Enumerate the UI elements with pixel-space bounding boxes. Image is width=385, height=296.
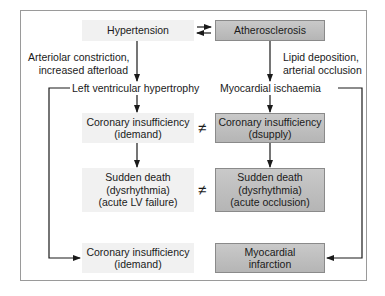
node-label: (acute LV failure) [98,196,177,209]
node-sudden-death-acute-occlusion: Sudden death (dysrhythmia) (acute occlus… [215,168,325,212]
node-label: Sudden death [105,171,170,184]
node-sudden-death-lv-failure: Sudden death (dysrhythmia) (acute LV fai… [82,168,194,212]
not-equal-symbol: ≠ [198,120,206,136]
node-label: Coronary insufficiency [86,246,189,259]
edge-label-left-mechanism: Arteriolar constriction, increased after… [28,51,128,76]
edge-label-line: Lipid deposition, [283,51,362,64]
node-atherosclerosis: Atherosclerosis [215,20,325,41]
node-label: Myocardial [245,246,296,259]
node-myocardial-infarction: Myocardial infarction [215,243,325,273]
node-coronary-insufficiency-demand: Coronary insufficiency (idemand) [82,113,194,143]
node-label: Atherosclerosis [234,24,306,37]
node-label: (idemand) [114,258,161,271]
node-hypertension: Hypertension [82,20,194,41]
node-coronary-insufficiency-supply: Coronary insufficiency (dsupply) [215,113,325,143]
node-ischaemia: Myocardial ischaemia [220,82,321,95]
not-equal-symbol: ≠ [198,182,206,198]
edge-label-right-mechanism: Lipid deposition, arterial occlusion [283,51,362,76]
node-label: (dysrhythmia) [106,184,170,197]
node-label: Hypertension [107,24,169,37]
node-label: Coronary insufficiency [86,116,189,129]
edge-label-line: arterial occlusion [283,64,362,77]
node-label: Coronary insufficiency [218,116,321,129]
node-label: (acute occlusion) [230,196,309,209]
edge-label-line: increased afterload [28,64,128,77]
node-coronary-insufficiency-demand-bottom: Coronary insufficiency (idemand) [82,243,194,273]
node-label: (dsupply) [248,128,291,141]
node-label: (dysrhythmia) [238,184,302,197]
node-lvh: Left ventricular hypertrophy [72,82,199,95]
node-label: Sudden death [237,171,302,184]
node-label: (idemand) [114,128,161,141]
node-label: infarction [249,258,292,271]
edge-label-line: Arteriolar constriction, [28,51,128,64]
